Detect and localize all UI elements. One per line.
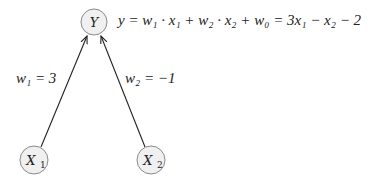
weight-label-w2: w₂ = −1 (125, 70, 175, 87)
svg-text:1: 1 (40, 160, 46, 170)
node-x1: X 1 (20, 146, 48, 174)
node-x2: X 2 (137, 146, 165, 174)
edge-x1-y (41, 36, 87, 147)
svg-text:Y: Y (90, 15, 100, 30)
equation: y = w₁ · x₁ + w₂ · x₂ + w₀ = 3x₁ − x₂ − … (118, 12, 361, 29)
edge-x2-y (101, 36, 145, 147)
svg-text:2: 2 (157, 160, 163, 170)
svg-text:X: X (25, 153, 36, 168)
svg-text:X: X (142, 153, 153, 168)
node-y: Y (81, 9, 107, 35)
weight-label-w1: w₁ = 3 (16, 70, 56, 87)
